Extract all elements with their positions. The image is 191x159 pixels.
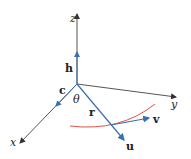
- h-label: h: [65, 62, 73, 75]
- r-label: r: [89, 106, 95, 119]
- y-label: y: [170, 98, 178, 111]
- v-label: v: [152, 113, 160, 126]
- y-axis: [77, 84, 176, 97]
- u-vector: [77, 84, 124, 140]
- x-label: x: [10, 136, 17, 149]
- vector-diagram: z y x h c r v u θ: [0, 0, 191, 159]
- theta-label: θ: [73, 93, 80, 106]
- u-label: u: [126, 140, 134, 153]
- red-curve: [70, 104, 155, 127]
- z-label: z: [69, 12, 76, 25]
- c-label: c: [59, 84, 66, 97]
